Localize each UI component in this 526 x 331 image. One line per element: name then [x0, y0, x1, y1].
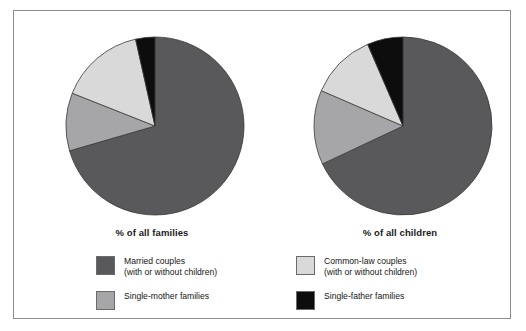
pie-svg-families [52, 31, 252, 221]
legend-swatch-married-couples [96, 256, 115, 275]
chart-frame: % of all families % of all children Marr… [13, 10, 511, 319]
legend-item-married-couples: Married couples (with or without childre… [96, 256, 326, 277]
legend-column-left: Married couples (with or without childre… [96, 256, 326, 324]
legend-item-single-mother: Single-mother families [96, 291, 326, 310]
pie-chart-families: % of all families [52, 31, 252, 221]
legend-swatch-single-mother [96, 291, 115, 310]
pie-wrap-families [52, 31, 252, 221]
legend-item-common-law-couples: Common-law couples (with or without chil… [296, 256, 526, 277]
legend-label-married-couples: Married couples (with or without childre… [124, 256, 217, 277]
figure-canvas: % of all families % of all children Marr… [0, 0, 526, 331]
legend: Married couples (with or without childre… [14, 256, 512, 318]
pie-svg-children [300, 31, 500, 221]
pie-caption-families: % of all families [52, 227, 252, 238]
pie-caption-children: % of all children [300, 227, 500, 238]
legend-column-right: Common-law couples (with or without chil… [296, 256, 526, 324]
pie-wrap-children [300, 31, 500, 221]
legend-label-common-law-couples: Common-law couples (with or without chil… [324, 256, 417, 277]
legend-swatch-single-father [296, 291, 315, 310]
legend-label-single-mother: Single-mother families [124, 291, 209, 302]
legend-swatch-common-law-couples [296, 256, 315, 275]
pie-chart-children: % of all children [300, 31, 500, 221]
legend-item-single-father: Single-father families [296, 291, 526, 310]
legend-label-single-father: Single-father families [324, 291, 404, 302]
